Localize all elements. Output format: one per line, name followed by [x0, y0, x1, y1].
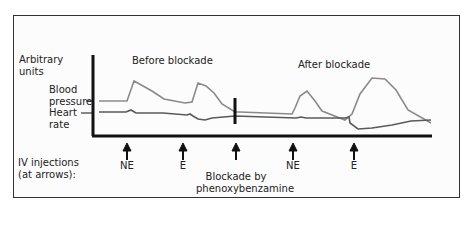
heart-rate-label: Heart rate	[49, 107, 77, 131]
arrow-label-blockade: Blockade by phenoxybenzamine	[196, 171, 276, 195]
hr-label-line1: Heart	[49, 107, 77, 119]
injection-arrows	[123, 143, 358, 160]
blood-pressure-label: Blood pressure	[49, 84, 92, 108]
y-axis-label: Arbitrary units	[19, 54, 63, 78]
y-axis-label-line2: units	[19, 66, 63, 78]
arrow-label-ne-1: NE	[112, 160, 142, 172]
y-axis-label-line1: Arbitrary	[19, 54, 63, 66]
bp-label-line1: Blood	[49, 84, 92, 96]
hr-label-line2: rate	[49, 119, 77, 131]
iv-label-line2: (at arrows):	[18, 169, 79, 181]
blockade-line1: Blockade by	[196, 171, 276, 183]
before-blockade-title: Before blockade	[132, 55, 213, 67]
blockade-line2: phenoxybenzamine	[196, 183, 276, 195]
arrow-label-ne-2: NE	[278, 160, 308, 172]
arrow-label-e-1: E	[168, 160, 198, 172]
iv-label-line1: IV injections	[18, 157, 79, 169]
arrow-label-e-2: E	[339, 160, 369, 172]
iv-injections-label: IV injections (at arrows):	[18, 157, 79, 181]
after-blockade-title: After blockade	[298, 59, 370, 71]
